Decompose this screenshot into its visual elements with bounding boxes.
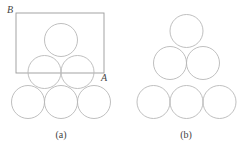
- caption-a: (a): [55, 129, 66, 141]
- circles-a: [12, 24, 111, 119]
- figure-canvas: B A (a) (b): [0, 0, 245, 150]
- circle: [78, 86, 111, 119]
- circle: [187, 47, 220, 80]
- circle: [154, 47, 187, 80]
- caption-b: (b): [180, 129, 192, 141]
- circles-b: [137, 15, 236, 119]
- circle: [12, 86, 45, 119]
- circle: [170, 86, 203, 119]
- circle: [170, 15, 203, 48]
- corner-label-b: B: [7, 4, 13, 15]
- circle: [203, 86, 236, 119]
- panel-b: (b): [137, 15, 236, 142]
- circle: [45, 24, 78, 57]
- circle: [28, 56, 61, 89]
- circle: [61, 56, 94, 89]
- panel-a: B A (a): [7, 4, 111, 141]
- circle: [137, 86, 170, 119]
- corner-label-a: A: [100, 72, 108, 83]
- bounding-rectangle: [16, 13, 104, 73]
- circle: [45, 86, 78, 119]
